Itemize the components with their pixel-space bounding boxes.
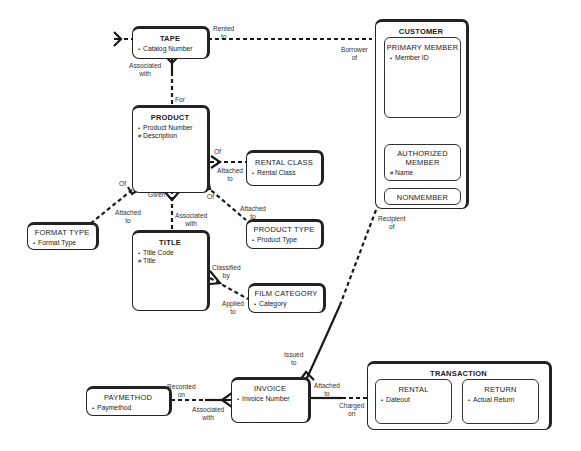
attribute: •Format Type (33, 239, 96, 246)
entity-title: TITLE (133, 238, 207, 247)
label-attached-to-trans: Attachedto (314, 382, 340, 398)
entity-product-type[interactable]: PRODUCT TYPE •Product Type (246, 219, 324, 249)
entity-transaction[interactable]: TRANSACTION RENTAL •Dateout RETURN •Actu… (367, 361, 552, 430)
entity-invoice[interactable]: INVOICE •Invoice Number (231, 377, 311, 423)
entity-title: PRODUCT TYPE (247, 225, 321, 234)
subtype-title: NONMEMBER (385, 193, 460, 202)
label-applied-to: Appliedto (222, 300, 244, 316)
label-attached-to-format: Attachedto (115, 209, 141, 225)
label-associated-with-title: Associatedwith (175, 212, 207, 228)
label-for: For (175, 96, 185, 104)
label-associated-with-tape: Associatedwith (129, 62, 161, 78)
subtype-authorized-member[interactable]: AUTHORIZEDMEMBER #Name (384, 144, 461, 181)
entity-customer[interactable]: CUSTOMER PRIMARY MEMBER •Member ID AUTHO… (375, 19, 469, 209)
attribute: #Title (138, 257, 207, 264)
entity-tape[interactable]: TAPE •Catalog Number (132, 26, 210, 59)
entity-title: FILM CATEGORY (249, 289, 323, 298)
attribute: •Catalog Number (138, 45, 207, 52)
label-recipient-of: Recipientof (378, 215, 406, 231)
label-attached-to-rental: Attachedto (217, 167, 243, 183)
label-issued-to: Issuedto (284, 351, 303, 367)
entity-title: TRANSACTION (368, 369, 549, 378)
label-attached-to-product-type: Attachedto (240, 205, 266, 221)
entity-title: INVOICE (232, 384, 308, 393)
label-of-product-type: Of (207, 193, 214, 201)
entity-product[interactable]: PRODUCT •Product Number #Description (132, 105, 210, 193)
label-borrower-of: Borrowerof (341, 46, 368, 62)
label-charged-on: Chargedon (339, 402, 364, 418)
entity-title: TAPE (133, 34, 207, 43)
entity-paymethod[interactable]: PAYMETHOD •Paymethod (86, 386, 172, 416)
entity-title: PAYMETHOD (87, 393, 169, 402)
attribute: •Member ID (390, 54, 460, 61)
subtype-return[interactable]: RETURN •Actual Return (462, 379, 539, 424)
subtype-title: PRIMARY MEMBER (385, 43, 460, 52)
entity-title: FORMAT TYPE (28, 228, 96, 237)
attribute: #Description (138, 132, 207, 139)
entity-rental-class[interactable]: RENTAL CLASS •Rental Class (246, 150, 324, 186)
attribute: #Name (390, 169, 460, 176)
entity-film-category[interactable]: FILM CATEGORY •Category (248, 283, 326, 313)
label-associated-with-pay: Associatedwith (192, 406, 224, 422)
label-classified-by: Classifiedby (212, 264, 241, 280)
label-given: Given (148, 191, 165, 199)
subtype-title: RETURN (463, 385, 538, 394)
attribute: •Product Type (252, 236, 321, 243)
entity-format-type[interactable]: FORMAT TYPE •Format Type (27, 222, 99, 250)
attribute: •Rental Class (252, 169, 321, 176)
label-recorded-on: Recordedon (167, 383, 196, 399)
entity-title: RENTAL CLASS (247, 158, 321, 167)
label-of-format: Of (119, 180, 126, 188)
attribute: •Product Number (138, 124, 207, 131)
attribute: •Category (254, 300, 323, 307)
label-rented-to: Rentedto (213, 25, 234, 41)
label-of-rental: Of (214, 148, 221, 156)
subtype-title: AUTHORIZEDMEMBER (385, 149, 460, 167)
subtype-primary-member[interactable]: PRIMARY MEMBER •Member ID (384, 37, 461, 118)
attribute: •Invoice Number (237, 395, 308, 402)
attribute: •Paymethod (92, 404, 169, 411)
subtype-rental[interactable]: RENTAL •Dateout (375, 379, 452, 424)
entity-title: PRODUCT (133, 113, 207, 122)
subtype-nonmember[interactable]: NONMEMBER (384, 188, 461, 205)
attribute: •Title Code (138, 249, 207, 256)
entity-title: CUSTOMER (376, 27, 466, 36)
attribute: •Dateout (381, 396, 451, 403)
entity-title[interactable]: TITLE •Title Code #Title (132, 230, 210, 311)
subtype-title: RENTAL (376, 385, 451, 394)
attribute: •Actual Return (468, 396, 538, 403)
